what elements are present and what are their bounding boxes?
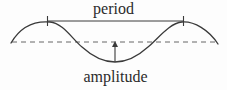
wave-diagram-figure: period amplitude bbox=[0, 0, 227, 90]
amplitude-label: amplitude bbox=[2, 69, 227, 85]
period-label: period bbox=[0, 1, 227, 17]
